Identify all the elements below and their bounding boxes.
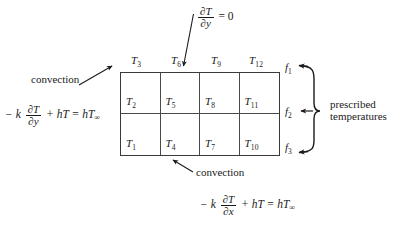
mesh-cell: T1 xyxy=(121,114,161,155)
top-bc-denominator: ∂y xyxy=(198,18,214,29)
top-bc-numerator: ∂T xyxy=(198,6,214,18)
bottom-bc-lead: − k xyxy=(200,198,216,210)
bottom-bc-tail: + hT = hT xyxy=(241,198,289,210)
bottom-bc-numerator: ∂T xyxy=(221,194,237,206)
left-bc-tail: + hT = hT xyxy=(46,108,94,120)
node-index: 4 xyxy=(172,144,176,153)
bottom-bc-subscript: ∞ xyxy=(289,203,295,212)
top-bc-rhs: = 0 xyxy=(218,10,233,22)
bottom-bc-fraction: ∂T ∂x xyxy=(221,194,237,217)
heat-transfer-mesh-figure: ∂T ∂y = 0 T3 T6 T9 T12 T2 T5 T8 T11 T1 T xyxy=(0,0,409,229)
mesh-cell: T4 xyxy=(161,114,201,155)
left-boundary-condition-equation: − k ∂T ∂y + hT = hT∞ xyxy=(5,104,100,127)
node-label-T10: T10 xyxy=(245,138,259,152)
flux-index: 3 xyxy=(288,147,292,156)
node-label-T12: T12 xyxy=(249,55,263,69)
mesh-cell: T8 xyxy=(200,73,240,114)
node-label-T4: T4 xyxy=(166,138,176,152)
flux-label-f1: f1 xyxy=(285,62,292,76)
flux-label-f2: f2 xyxy=(285,106,292,120)
mesh-cell: T5 xyxy=(161,73,201,114)
left-convection-label: convection xyxy=(31,73,79,85)
flux-index: 2 xyxy=(288,111,292,120)
node-index: 11 xyxy=(251,102,259,111)
left-bc-numerator: ∂T xyxy=(26,104,42,116)
bottom-convection-label: convection xyxy=(196,166,244,178)
mesh-cell: T7 xyxy=(200,114,240,155)
node-index: 8 xyxy=(211,102,215,111)
finite-difference-mesh: T2 T5 T8 T11 T1 T4 T7 T10 xyxy=(120,72,280,156)
node-label-T2: T2 xyxy=(126,96,136,110)
top-boundary-condition-equation: ∂T ∂y = 0 xyxy=(196,6,234,29)
node-index: 3 xyxy=(137,60,141,69)
node-index: 7 xyxy=(211,144,215,153)
mesh-cell: T11 xyxy=(240,73,280,114)
mesh-cell: T2 xyxy=(121,73,161,114)
flux-index: 1 xyxy=(288,67,292,76)
bottom-bc-denominator: ∂x xyxy=(221,206,237,217)
brace-arrow-f1 xyxy=(299,66,308,67)
prescribed-line-1: prescribed xyxy=(330,98,387,110)
top-bc-arrow xyxy=(184,14,194,66)
bottom-convection-arrow xyxy=(173,160,193,172)
prescribed-temperatures-brace xyxy=(301,66,320,152)
node-label-T6: T6 xyxy=(171,55,181,69)
node-index: 9 xyxy=(217,60,221,69)
left-bc-lead: − k xyxy=(5,108,21,120)
node-label-T3: T3 xyxy=(131,55,141,69)
flux-label-f3: f3 xyxy=(285,142,292,156)
node-label-T8: T8 xyxy=(205,96,215,110)
node-label-T1: T1 xyxy=(126,138,136,152)
node-index: 5 xyxy=(172,102,176,111)
node-label-T9: T9 xyxy=(211,55,221,69)
node-index: 2 xyxy=(132,102,136,111)
bottom-boundary-condition-equation: − k ∂T ∂x + hT = hT∞ xyxy=(200,194,295,217)
node-index: 6 xyxy=(177,60,181,69)
node-label-T5: T5 xyxy=(166,96,176,110)
node-index: 10 xyxy=(251,144,259,153)
prescribed-temperatures-label: prescribed temperatures xyxy=(330,98,387,123)
node-index: 1 xyxy=(132,144,136,153)
top-bc-fraction: ∂T ∂y xyxy=(198,6,214,29)
prescribed-line-2: temperatures xyxy=(330,110,387,122)
node-label-T7: T7 xyxy=(205,138,215,152)
node-index: 12 xyxy=(255,60,263,69)
left-bc-fraction: ∂T ∂y xyxy=(26,104,42,127)
mesh-cell: T10 xyxy=(240,114,280,155)
left-bc-subscript: ∞ xyxy=(94,113,100,122)
left-bc-denominator: ∂y xyxy=(26,116,42,127)
brace-arrow-f3 xyxy=(299,152,308,153)
left-convection-arrow xyxy=(79,66,112,85)
node-label-T11: T11 xyxy=(245,96,259,110)
